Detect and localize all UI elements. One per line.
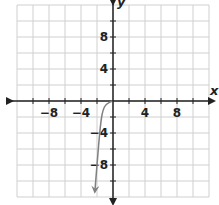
y-axis-label: y: [117, 0, 126, 9]
function-curve: [95, 101, 112, 190]
y-tick-label: −8: [90, 158, 108, 172]
y-tick-label: 8: [100, 30, 108, 44]
x-tick-label: −4: [72, 106, 90, 120]
y-tick-label: 4: [100, 62, 108, 76]
x-tick-label: 4: [141, 106, 149, 120]
x-tick-label: −8: [40, 106, 58, 120]
coordinate-plane: x y −8 −4 4 8 8 4 −4 −8: [0, 0, 219, 205]
x-tick-label: 8: [173, 106, 181, 120]
x-axis-label: x: [209, 83, 219, 98]
